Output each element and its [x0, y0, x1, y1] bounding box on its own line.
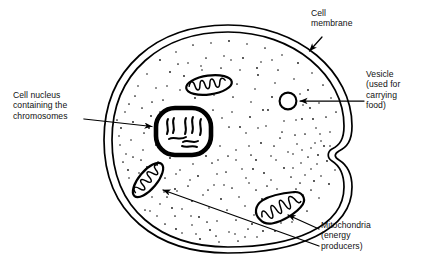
membrane-leader — [310, 37, 323, 51]
mitochondrion-top — [185, 72, 233, 97]
label-mitochondria: Mitochondria (energy producers) — [321, 220, 371, 251]
label-cell-membrane: Cell membrane — [311, 8, 352, 29]
nucleus-leader — [84, 119, 152, 127]
vesicle — [280, 93, 297, 110]
cell-membrane — [104, 25, 352, 253]
label-cell-nucleus: Cell nucleus containing the chromosomes — [13, 90, 68, 121]
label-vesicle: Vesicle (used for carrying food) — [366, 69, 400, 111]
cell-membrane-outer-line — [104, 25, 352, 253]
mitochondrion-bottom-right — [252, 183, 309, 230]
leader-lines — [84, 37, 364, 246]
cell-diagram-canvas: Cell membrane Vesicle (used for carrying… — [0, 0, 421, 272]
nucleus-envelope — [156, 108, 211, 155]
cell-membrane-inner-line — [112, 32, 344, 247]
mitochondrion-left — [128, 158, 169, 202]
cell-nucleus — [156, 108, 211, 155]
